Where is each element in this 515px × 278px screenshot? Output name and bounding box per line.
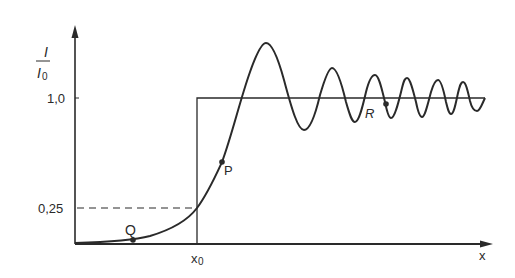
point-q-marker bbox=[130, 237, 136, 243]
point-r-marker bbox=[383, 101, 389, 107]
point-r-label: R bbox=[365, 106, 374, 121]
y-axis-arrow-icon bbox=[72, 25, 79, 38]
y-tick-label-1: 1,0 bbox=[47, 91, 65, 106]
x-tick-label-x0: x 0 bbox=[191, 251, 204, 267]
x-axis-arrow-icon bbox=[480, 241, 493, 248]
point-q-label: Q bbox=[125, 222, 136, 238]
y-axis-label-numerator: I bbox=[44, 44, 48, 60]
axes bbox=[72, 25, 494, 248]
step-function-line bbox=[197, 98, 485, 244]
point-p-label: P bbox=[224, 163, 233, 178]
y-tick-label-0-25: 0,25 bbox=[38, 201, 63, 216]
y-axis-label-denominator: I bbox=[37, 65, 41, 81]
y-axis-label: I I 0 bbox=[36, 44, 50, 82]
diffraction-intensity-curve bbox=[75, 43, 485, 243]
x-tick-label-subscript: 0 bbox=[198, 256, 204, 267]
x-axis-label: x bbox=[479, 248, 486, 263]
y-axis-label-denominator-subscript: 0 bbox=[42, 71, 48, 82]
fresnel-edge-diffraction-diagram: Q P R I I 0 1,0 0,25 x 0 x bbox=[0, 0, 515, 278]
x-tick-label-main: x bbox=[191, 251, 198, 266]
